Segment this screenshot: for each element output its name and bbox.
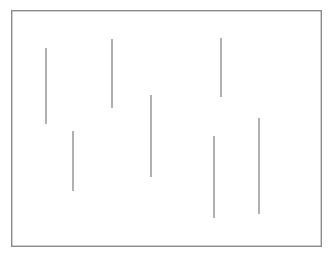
figure-root (0, 0, 333, 260)
bounding-rectangle (12, 11, 322, 247)
stimulus-canvas (0, 0, 333, 260)
